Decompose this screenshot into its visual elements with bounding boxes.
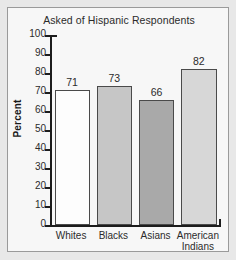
bar-blacks: 73 — [97, 86, 132, 225]
y-tick-label: 70 — [35, 85, 46, 96]
category-label-line: Whites — [50, 230, 92, 241]
category-label-american-indians: AmericanIndians — [177, 230, 219, 252]
category-label-line: Asians — [135, 230, 177, 241]
x-axis-end-cap — [219, 219, 221, 227]
chart-title: Asked of Hispanic Respondents — [8, 14, 230, 26]
category-label-line: American — [177, 230, 219, 241]
y-tick-label: 0 — [40, 218, 46, 229]
y-tick-label: 10 — [35, 199, 46, 210]
y-tick-label: 100 — [29, 28, 46, 39]
y-axis-label: Percent — [12, 89, 23, 149]
category-label-blacks: Blacks — [92, 230, 134, 241]
y-tick-label: 50 — [35, 123, 46, 134]
bar-american-indians: 82 — [181, 69, 216, 225]
y-tick-label: 40 — [35, 142, 46, 153]
bar-value-label: 66 — [151, 86, 163, 98]
y-tick-label: 20 — [35, 180, 46, 191]
y-tick-label: 60 — [35, 104, 46, 115]
plot-area: 1009080706050403020100 71736682 WhitesBl… — [50, 35, 219, 225]
bar-value-label: 71 — [66, 76, 78, 88]
y-axis-line — [50, 35, 52, 226]
y-axis-top-cap — [50, 35, 57, 37]
bar-whites: 71 — [55, 90, 90, 225]
y-tick-label: 80 — [35, 66, 46, 77]
y-tick-label: 90 — [35, 47, 46, 58]
bar-asians: 66 — [139, 100, 174, 225]
bar-value-label: 73 — [109, 72, 121, 84]
category-label-line: Indians — [177, 241, 219, 252]
category-label-line: Blacks — [92, 230, 134, 241]
y-tick-label: 30 — [35, 161, 46, 172]
chart-figure: Asked of Hispanic Respondents Percent 10… — [7, 7, 229, 252]
category-label-whites: Whites — [50, 230, 92, 241]
x-axis-line — [50, 225, 221, 227]
bar-value-label: 82 — [193, 55, 205, 67]
category-label-asians: Asians — [135, 230, 177, 241]
